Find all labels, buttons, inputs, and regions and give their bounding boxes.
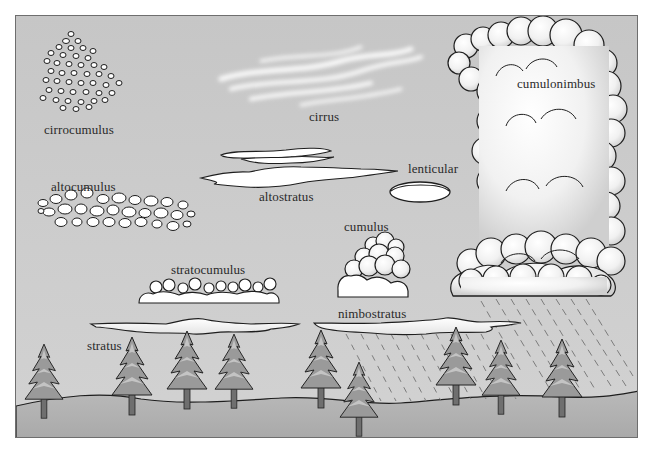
label-stratocumulus: stratocumulus <box>171 262 245 278</box>
stratocumulus-cloud <box>139 278 279 303</box>
label-cumulus: cumulus <box>344 219 389 235</box>
cirrocumulus-cloud <box>40 32 122 112</box>
label-cirrus: cirrus <box>309 109 339 125</box>
label-cumulonimbus: cumulonimbus <box>517 76 595 92</box>
label-stratus: stratus <box>87 338 122 354</box>
cumulonimbus-cloud <box>448 16 627 296</box>
lenticular-cloud <box>390 182 450 202</box>
stratus-cloud <box>91 318 299 334</box>
altostratus-cloud <box>201 148 398 187</box>
ground <box>16 391 638 438</box>
label-nimbostratus: nimbostratus <box>338 306 406 322</box>
cloud-types-diagram: cirrocumulus cirrus cumulonimbus altocum… <box>15 15 638 438</box>
label-lenticular: lenticular <box>408 161 458 177</box>
label-altostratus: altostratus <box>259 189 314 205</box>
cirrus-cloud <box>221 47 421 105</box>
cumulus-cloud <box>338 232 410 297</box>
label-cirrocumulus: cirrocumulus <box>44 122 114 138</box>
label-altocumulus: altocumulus <box>51 179 116 195</box>
